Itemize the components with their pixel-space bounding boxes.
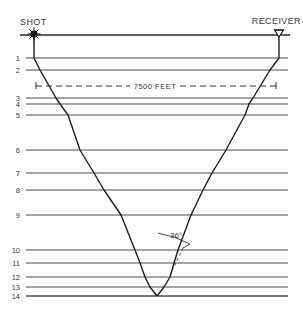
layer-label: 9: [16, 211, 20, 220]
layer-label: 5: [16, 111, 20, 120]
seismic-ray-diagram: 1234567891011121314 7500 FEET SHOT RECEI…: [0, 0, 303, 314]
layer-label: 13: [12, 283, 20, 292]
layer-label: 7: [16, 169, 20, 178]
layer-label: 8: [16, 186, 20, 195]
downgoing-ray: [34, 35, 157, 296]
receiver-triangle-icon: [274, 30, 284, 37]
layer-label: 1: [16, 54, 20, 63]
layer-label: 10: [12, 246, 20, 255]
layer-label: 12: [12, 273, 20, 282]
layer-label: 4: [16, 100, 20, 109]
layer-label: 6: [16, 146, 20, 155]
receiver-label: RECEIVER: [252, 16, 301, 26]
angle-label: 36°: [170, 231, 182, 240]
layer-label: 11: [12, 259, 20, 268]
layer-label: 14: [12, 292, 20, 301]
layer-label: 2: [16, 66, 20, 75]
upgoing-ray: [157, 35, 279, 296]
incidence-angle-annotation: 36°: [158, 231, 190, 275]
ray-path: [34, 35, 279, 296]
offset-dimension: 7500 FEET: [36, 82, 276, 91]
shot-explosion-icon: [28, 28, 41, 41]
offset-label: 7500 FEET: [134, 82, 176, 91]
shot-label: SHOT: [20, 17, 47, 27]
